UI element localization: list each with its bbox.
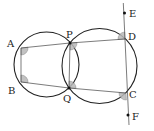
segment-ap bbox=[21, 43, 70, 48]
segment-pd bbox=[70, 39, 125, 43]
line-ef bbox=[123, 3, 129, 125]
label-f: F bbox=[132, 111, 139, 122]
segment-bq bbox=[21, 82, 69, 88]
label-q: Q bbox=[63, 93, 71, 104]
label-c: C bbox=[129, 89, 137, 100]
label-p: P bbox=[66, 29, 73, 40]
angle-marker-d bbox=[118, 32, 125, 40]
right-circle bbox=[62, 29, 137, 104]
segment-qc bbox=[69, 88, 126, 93]
point-f-dot bbox=[127, 114, 130, 117]
point-p-dot bbox=[69, 42, 72, 45]
angle-marker-c bbox=[119, 93, 126, 100]
angle-marker-b bbox=[21, 75, 28, 83]
angle-marker-a bbox=[21, 47, 28, 55]
point-e-dot bbox=[123, 12, 126, 15]
label-e: E bbox=[129, 8, 136, 19]
geometry-diagram: A B P Q D C E F bbox=[0, 0, 154, 131]
label-a: A bbox=[6, 38, 15, 49]
label-b: B bbox=[8, 85, 15, 96]
label-d: D bbox=[128, 31, 136, 42]
point-q-dot bbox=[68, 87, 71, 90]
